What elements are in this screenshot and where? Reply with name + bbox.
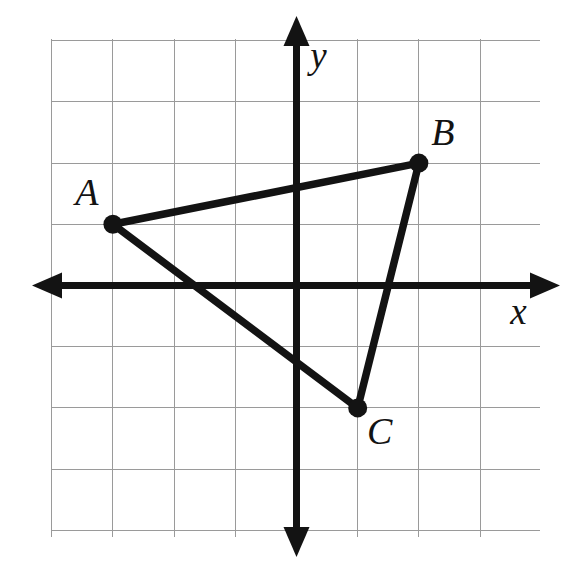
triangle-side-ab [113, 163, 419, 224]
point-label-a: A [72, 171, 99, 213]
x-axis-arrow-right-icon [530, 273, 560, 299]
vertex-dot-a [103, 215, 122, 234]
y-axis-arrow-up-icon [284, 16, 310, 46]
x-axis-arrow-left-icon [32, 273, 62, 299]
y-axis-arrow-down-icon [284, 527, 310, 557]
vertex-dot-c [348, 398, 367, 417]
y-axis-label: y [306, 35, 327, 76]
coordinate-plane-figure: A B C x y [0, 0, 580, 587]
coordinate-plane-svg: A B C x y [0, 0, 580, 587]
point-label-b: B [431, 111, 454, 153]
x-axis-label: x [509, 291, 527, 332]
point-label-c: C [367, 410, 393, 452]
axes [32, 16, 560, 557]
vertex-dot-b [409, 154, 428, 173]
